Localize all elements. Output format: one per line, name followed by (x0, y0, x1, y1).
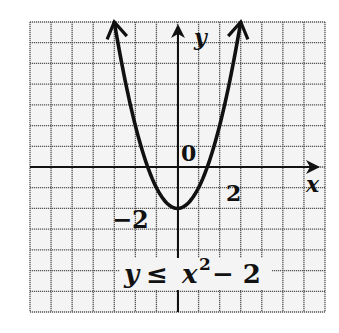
inequality-lhs: y (123, 259, 141, 289)
inequality-exponent: 2 (199, 254, 211, 274)
origin-label: 0 (181, 140, 196, 166)
parabola-inequality-graph: y x 0 2 −2 y ≤ x 2 − 2 (0, 0, 339, 333)
inequality-rest: − 2 (212, 259, 261, 289)
x-tick-label-2: 2 (226, 180, 241, 206)
inequality-label: y ≤ x 2 − 2 (120, 254, 272, 290)
y-axis-label: y (193, 24, 209, 50)
inequality-symbol: ≤ (146, 259, 168, 289)
y-tick-label-neg2: −2 (112, 205, 149, 234)
x-axis-label: x (305, 171, 320, 197)
inequality-base: x (181, 259, 198, 289)
